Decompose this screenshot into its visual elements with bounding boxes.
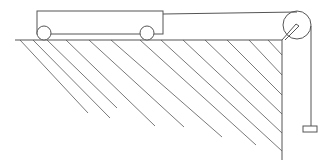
right-wheel bbox=[140, 26, 154, 40]
hanging-block bbox=[303, 126, 317, 132]
string-horizontal bbox=[163, 12, 297, 14]
table-hatching bbox=[20, 40, 282, 151]
physics-diagram bbox=[0, 0, 330, 167]
left-wheel bbox=[37, 26, 51, 40]
